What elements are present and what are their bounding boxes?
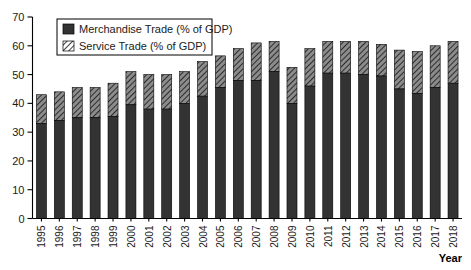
y-tick-label: 10 <box>12 184 24 196</box>
bar-segment-merchandise <box>323 73 333 218</box>
x-tick-label-year: 2006 <box>233 225 244 248</box>
bar-segment-service <box>197 62 207 97</box>
bar-segment-service <box>162 75 172 110</box>
x-tick-label-year: 1996 <box>54 225 65 248</box>
legend-label-service: Service Trade (% of GDP) <box>79 40 206 52</box>
x-tick-label-year: 2008 <box>269 225 280 248</box>
y-tick-label: 70 <box>12 11 24 23</box>
y-tick-label: 60 <box>12 40 24 52</box>
x-tick-label-year: 2012 <box>341 225 352 248</box>
bar-segment-merchandise <box>251 80 261 218</box>
bar-segment-merchandise <box>287 103 297 218</box>
bar-segment-service <box>144 75 154 110</box>
x-tick-label-year: 2000 <box>126 225 137 248</box>
x-tick-label-year: 1998 <box>90 225 101 248</box>
legend-swatch-merchandise <box>63 24 74 34</box>
x-tick-label-year: 2009 <box>287 225 298 248</box>
bar-segment-service <box>287 67 297 103</box>
bar-segment-service <box>72 88 82 118</box>
bar-segment-service <box>430 46 440 88</box>
bar-segment-merchandise <box>394 89 404 219</box>
bar-segment-service <box>233 49 243 81</box>
bar-segment-merchandise <box>412 93 422 218</box>
bar-segment-merchandise <box>90 118 100 219</box>
y-tick-label: 30 <box>12 126 24 138</box>
x-tick-label-year: 2016 <box>412 225 423 248</box>
bar-segment-merchandise <box>448 83 458 218</box>
bar-segment-service <box>126 72 136 105</box>
bar-segment-merchandise <box>233 80 243 218</box>
bar-segment-merchandise <box>197 96 207 218</box>
bar-segment-service <box>36 95 46 124</box>
bar-segment-service <box>341 41 351 73</box>
bar-segment-merchandise <box>180 103 190 218</box>
x-tick-label-year: 2010 <box>305 225 316 248</box>
bar-segment-service <box>376 44 386 76</box>
y-tick-label: 50 <box>12 69 24 81</box>
y-tick-label: 20 <box>12 155 24 167</box>
chart-canvas: 010203040506070 199519961997199819992000… <box>0 0 471 270</box>
x-tick-label-year: 2001 <box>144 225 155 248</box>
x-tick-label-year: 2004 <box>198 225 209 248</box>
bar-segment-service <box>359 41 369 74</box>
x-tick-label-year: 2017 <box>430 225 441 248</box>
x-tick-label-year: 2003 <box>180 225 191 248</box>
bar-segment-merchandise <box>54 121 64 219</box>
x-tick-label-year: 2011 <box>323 225 334 247</box>
x-tick-label-year: 2013 <box>359 225 370 248</box>
bar-segment-service <box>269 41 279 71</box>
x-tick-label-year: 2014 <box>376 225 387 248</box>
bar-segment-merchandise <box>126 105 136 219</box>
bar-segment-service <box>108 83 118 116</box>
bar-segment-merchandise <box>108 116 118 218</box>
legend-label-merchandise: Merchandise Trade (% of GDP) <box>79 23 232 35</box>
bar-chart: 010203040506070 199519961997199819992000… <box>0 0 471 270</box>
bar-segment-merchandise <box>430 88 440 219</box>
x-axis-title: Year <box>439 252 463 264</box>
bar-segment-service <box>394 50 404 89</box>
bar-segment-service <box>251 43 261 80</box>
y-tick-label: 0 <box>18 213 24 225</box>
bar-segment-merchandise <box>269 72 279 219</box>
x-tick-label-year: 1997 <box>72 225 83 248</box>
chart-legend: Merchandise Trade (% of GDP)Service Trad… <box>57 19 232 55</box>
x-tick-label-year: 1995 <box>36 225 47 248</box>
bar-segment-service <box>54 92 64 121</box>
bar-segment-service <box>448 41 458 83</box>
bar-segment-service <box>412 52 422 94</box>
bar-segment-merchandise <box>341 73 351 218</box>
bar-segment-service <box>305 49 315 86</box>
bar-segment-merchandise <box>36 124 46 219</box>
x-tick-label-year: 2002 <box>162 225 173 248</box>
bar-segment-merchandise <box>359 75 369 219</box>
bar-segment-merchandise <box>162 109 172 218</box>
x-tick-label-year: 2005 <box>215 225 226 248</box>
x-tick-label-year: 1999 <box>108 225 119 248</box>
y-tick-label: 40 <box>12 97 24 109</box>
bar-segment-service <box>90 88 100 118</box>
x-tick-label-year: 2015 <box>394 225 405 248</box>
bar-segment-merchandise <box>376 76 386 218</box>
x-tick-label-year: 2007 <box>251 225 262 248</box>
bar-segment-merchandise <box>72 118 82 219</box>
legend-swatch-service <box>63 41 74 51</box>
bar-segment-merchandise <box>305 86 315 218</box>
bar-segment-service <box>180 72 190 104</box>
bar-segment-service <box>215 56 225 88</box>
bar-segment-merchandise <box>144 109 154 218</box>
x-tick-label-year: 2018 <box>448 225 459 248</box>
bar-segment-merchandise <box>215 88 225 219</box>
bar-segment-service <box>323 41 333 73</box>
